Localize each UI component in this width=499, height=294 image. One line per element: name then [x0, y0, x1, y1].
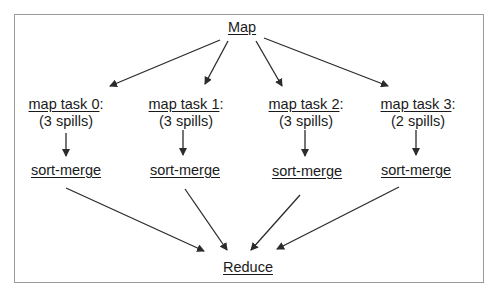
- task-colon: :: [99, 96, 103, 112]
- sort-merge-1: sort-merge: [150, 162, 220, 179]
- task-spills: (3 spills): [149, 113, 224, 130]
- task-spills: (2 spills): [381, 113, 456, 130]
- arrow-merge3-to-reduce: [277, 187, 399, 249]
- map-node: Map: [228, 19, 256, 36]
- task-label: map task 0: [29, 96, 100, 112]
- sort-merge-0: sort-merge: [31, 162, 101, 179]
- task-spills: (3 spills): [29, 113, 104, 130]
- task-label: map task 3: [381, 96, 452, 112]
- sort-merge-2: sort-merge: [272, 163, 342, 180]
- arrow-map-to-task1: [205, 41, 228, 84]
- merge-label: sort-merge: [272, 163, 342, 179]
- arrows-layer: [0, 0, 499, 294]
- map-task-2: map task 2: (3 spills): [269, 96, 344, 130]
- map-task-1: map task 1: (3 spills): [149, 96, 224, 130]
- arrow-merge1-to-reduce: [185, 189, 227, 250]
- merge-label: sort-merge: [150, 162, 220, 178]
- map-task-0: map task 0: (3 spills): [29, 96, 104, 130]
- task-label: map task 1: [149, 96, 220, 112]
- merge-label: sort-merge: [381, 162, 451, 178]
- task-colon: :: [219, 96, 223, 112]
- arrow-merge0-to-reduce: [66, 188, 204, 251]
- arrow-map-to-task0: [110, 40, 220, 86]
- task-spills: (3 spills): [269, 113, 344, 130]
- sort-merge-3: sort-merge: [381, 162, 451, 179]
- task-colon: :: [339, 96, 343, 112]
- reduce-node: Reduce: [223, 259, 273, 276]
- arrow-map-to-task2: [256, 41, 282, 86]
- map-task-3: map task 3: (2 spills): [381, 96, 456, 130]
- reduce-label: Reduce: [223, 259, 273, 275]
- task-colon: :: [451, 96, 455, 112]
- merge-label: sort-merge: [31, 162, 101, 178]
- map-label: Map: [228, 19, 256, 35]
- arrow-map-to-task3: [264, 38, 388, 86]
- task-label: map task 2: [269, 96, 340, 112]
